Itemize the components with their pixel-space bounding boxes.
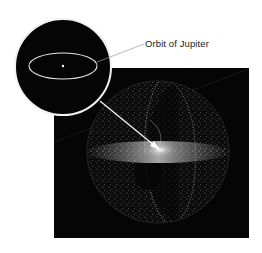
- inset-solar-system: [15, 19, 111, 115]
- orbit-of-jupiter-label: Orbit of Jupiter: [145, 38, 209, 49]
- oort-cloud-diagram: [0, 0, 262, 253]
- oort-cloud-sphere: [87, 81, 229, 223]
- sun-icon: [62, 65, 64, 67]
